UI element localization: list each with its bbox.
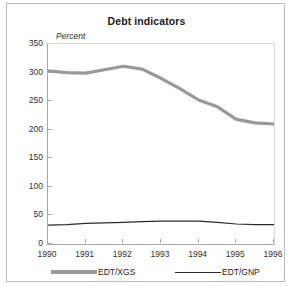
legend-entry-edt-gnp: EDT/GNP [175, 265, 260, 279]
y-tick-label: 0 [11, 238, 43, 248]
chart-legend: EDT/XGS EDT/GNP [7, 265, 286, 281]
y-tick-label: 100 [11, 181, 43, 191]
y-tick-label: 200 [11, 124, 43, 134]
y-tick-label: 250 [11, 95, 43, 105]
y-tick-label: 300 [11, 67, 43, 77]
x-tick-label: 1990 [27, 249, 67, 259]
y-tick-label: 150 [11, 152, 43, 162]
legend-swatch-edt-xgs [51, 270, 97, 274]
chart-figure: Debt indicators Percent 0501001502002503… [6, 3, 285, 282]
x-tick-label: 1996 [253, 249, 292, 259]
legend-entry-edt-xgs: EDT/XGS [51, 265, 135, 279]
legend-label-edt-xgs: EDT/XGS [98, 267, 135, 277]
series-line-edt-gnp [48, 221, 274, 225]
chart-title: Debt indicators [7, 15, 286, 27]
y-tick-label: 350 [11, 38, 43, 48]
plot-lines [48, 44, 274, 244]
x-tick-label: 1991 [65, 249, 105, 259]
y-axis-label: Percent [56, 31, 85, 41]
y-tick-label: 50 [11, 209, 43, 219]
plot-area [47, 43, 275, 245]
legend-swatch-edt-gnp [175, 272, 221, 273]
series-line-edt-xgs [48, 66, 274, 124]
x-tick-label: 1995 [215, 249, 255, 259]
x-tick-label: 1992 [102, 249, 142, 259]
legend-label-edt-gnp: EDT/GNP [222, 267, 260, 277]
x-tick-label: 1993 [140, 249, 180, 259]
x-tick-label: 1994 [178, 249, 218, 259]
